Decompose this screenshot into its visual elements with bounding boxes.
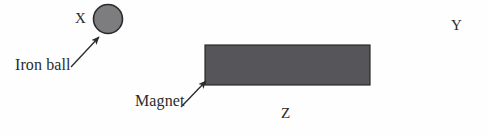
diagram-canvas-container: X Y Z Iron ball Magnet	[0, 0, 488, 135]
iron-ball-circle	[94, 5, 123, 34]
label-point-x: X	[75, 11, 86, 26]
label-iron-ball: Iron ball	[15, 57, 71, 73]
iron-ball-arrow	[71, 37, 99, 67]
label-magnet: Magnet	[135, 93, 184, 109]
magnet-rectangle	[205, 45, 370, 85]
magnet-arrow	[181, 81, 206, 107]
label-point-y: Y	[451, 18, 462, 33]
label-point-z: Z	[281, 106, 290, 121]
diagram-vector-layer	[0, 0, 488, 135]
